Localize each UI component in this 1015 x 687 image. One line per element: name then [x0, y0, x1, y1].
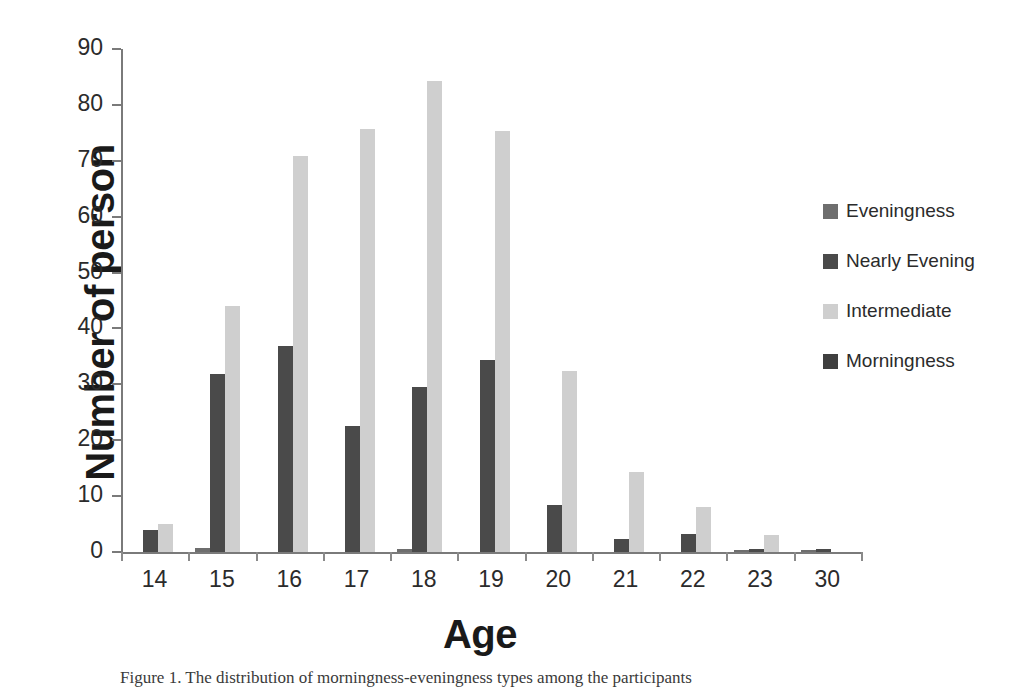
y-tick-label: 90 [43, 34, 103, 61]
bar [734, 550, 749, 552]
y-tick-label: 20 [43, 425, 103, 452]
y-tick-label: 0 [43, 537, 103, 564]
bar [225, 306, 240, 552]
x-tick-label: 30 [787, 566, 867, 593]
y-tick-label: 30 [43, 369, 103, 396]
bar [158, 524, 173, 552]
x-axis-line [121, 552, 861, 554]
y-tick-mark [112, 327, 121, 329]
bar [480, 360, 495, 552]
y-tick-mark [112, 383, 121, 385]
bar [195, 548, 210, 552]
x-tick-mark [861, 552, 863, 561]
y-tick-label: 70 [43, 146, 103, 173]
x-tick-mark [323, 552, 325, 561]
bar [360, 129, 375, 552]
x-tick-mark [256, 552, 258, 561]
bar [547, 505, 562, 552]
y-tick-mark [112, 551, 121, 553]
x-tick-mark [188, 552, 190, 561]
bar [397, 549, 412, 552]
bar [412, 387, 427, 552]
plot-area: 0102030405060708090 14151617181920212223… [121, 49, 861, 552]
x-tick-mark [794, 552, 796, 561]
y-tick-label: 10 [43, 481, 103, 508]
legend-swatch-icon [823, 204, 838, 219]
legend-item: Nearly Evening [823, 236, 1008, 286]
y-tick-mark [112, 272, 121, 274]
x-tick-mark [121, 552, 123, 561]
y-tick-label: 80 [43, 90, 103, 117]
y-tick-mark [112, 48, 121, 50]
bar [427, 81, 442, 552]
y-tick-label: 40 [43, 313, 103, 340]
bar [495, 131, 510, 552]
legend-item-label: Morningness [846, 350, 955, 372]
bar [293, 156, 308, 552]
y-tick-mark [112, 216, 121, 218]
legend-item: Intermediate [823, 286, 1008, 336]
legend-item: Eveningness [823, 186, 1008, 236]
bar [696, 507, 711, 552]
bar [345, 426, 360, 552]
x-tick-mark [659, 552, 661, 561]
bar [749, 549, 764, 552]
bar [681, 534, 696, 552]
bar [629, 472, 644, 552]
legend-item-label: Intermediate [846, 300, 952, 322]
x-tick-mark [592, 552, 594, 561]
bar [143, 530, 158, 552]
y-tick-mark [112, 495, 121, 497]
bar [801, 550, 816, 552]
legend-swatch-icon [823, 304, 838, 319]
bar [210, 374, 225, 552]
y-tick-mark [112, 160, 121, 162]
y-tick-label: 60 [43, 202, 103, 229]
legend-item-label: Eveningness [846, 200, 955, 222]
figure-caption: Figure 1. The distribution of morningnes… [120, 668, 920, 687]
legend-swatch-icon [823, 354, 838, 369]
figure-chart: Number of person Age 0102030405060708090… [0, 0, 1015, 687]
y-tick-label: 50 [43, 258, 103, 285]
x-tick-mark [390, 552, 392, 561]
bar [816, 549, 831, 552]
bar [278, 346, 293, 552]
y-tick-mark [112, 439, 121, 441]
bar [562, 371, 577, 552]
legend-swatch-icon [823, 254, 838, 269]
x-tick-mark [525, 552, 527, 561]
x-axis-title: Age [380, 612, 580, 657]
x-tick-mark [457, 552, 459, 561]
bar [614, 539, 629, 552]
chart-legend: EveningnessNearly EveningIntermediateMor… [823, 186, 1008, 386]
legend-item-label: Nearly Evening [846, 250, 975, 272]
y-axis-line [121, 49, 123, 552]
x-tick-mark [726, 552, 728, 561]
legend-item: Morningness [823, 336, 1008, 386]
y-tick-mark [112, 104, 121, 106]
bar [764, 535, 779, 552]
